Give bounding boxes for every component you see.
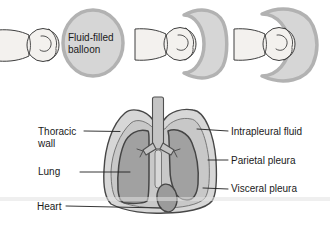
parietal-pleura-label: Parietal pleura	[231, 155, 295, 167]
panel-balloon-enveloping	[234, 9, 317, 81]
panel-balloon-indented	[135, 10, 227, 78]
thorax-diagram	[104, 97, 217, 213]
visceral-pleura-label: Visceral pleura	[231, 183, 297, 195]
thoracic-wall-label: Thoracic wall	[38, 126, 84, 149]
fist-icon	[234, 28, 295, 61]
balloon-label: Fluid-filled balloon	[68, 32, 122, 55]
heart-label: Heart	[37, 201, 61, 213]
intrapleural-fluid-label: Intrapleural fluid	[231, 126, 302, 138]
esophagus-shape	[155, 150, 162, 188]
trachea-shape	[153, 97, 164, 149]
thoracic-wall-leader-line	[84, 131, 120, 132]
lung-label: Lung	[38, 166, 60, 178]
pleura-balloon-analogy-figure: Fluid-filled balloon Thoracic wall Lung …	[0, 0, 330, 228]
fist-icon	[0, 29, 59, 62]
fist-icon	[135, 28, 196, 61]
